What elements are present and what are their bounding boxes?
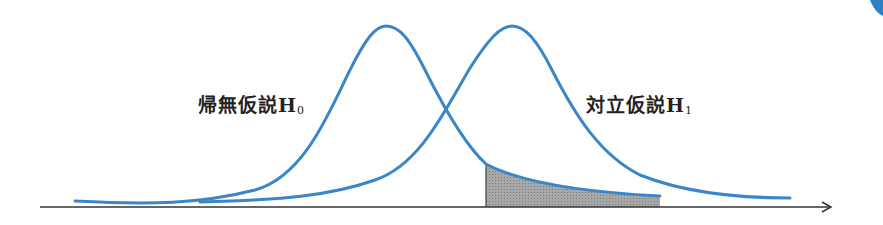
null-distribution-curve — [75, 26, 660, 203]
hypothesis-diagram — [0, 0, 883, 225]
alt-hypothesis-label: 対立仮説H1 — [586, 90, 693, 117]
null-hypothesis-label: 帰無仮説H0 — [198, 90, 305, 117]
corner-mark — [870, 0, 883, 16]
